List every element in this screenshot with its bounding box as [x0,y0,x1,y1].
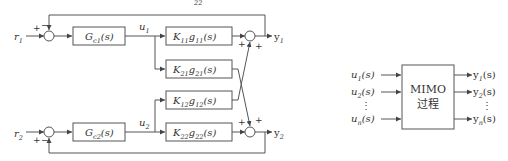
output-junction-2 [245,127,255,137]
output-ellipsis: ⋮ [482,100,492,111]
output-yns-label: yn(s) [472,113,496,127]
sign-err1-ref: + [33,23,41,33]
error-junction-1 [44,31,54,41]
sign-sum1-a: + [238,39,246,49]
u1-label: u1 [139,21,150,35]
input-u2-label: u2(s) [351,86,375,100]
sign-err2-fb: − [41,135,49,145]
process-label: 过程 [417,98,439,111]
loop-2: r2 + − Gc2(s) u2 K12g12(s) K22g22(s) + +… [14,91,284,153]
mimo-label: MIMO [410,83,446,96]
mimo-process-block [402,65,454,129]
input-r1-label: r1 [14,31,23,45]
sign-sum2-a: + [238,117,246,127]
output-y1s-label: y1(s) [472,69,496,83]
sign-sum1-b: + [255,41,263,51]
cross-coupling-k12-to-y1 [232,42,250,100]
sign-sum2-b: + [255,115,263,125]
input-r2-label: r2 [14,128,23,142]
input-un-label: un(s) [351,113,375,127]
input-u1-label: u1(s) [351,69,375,83]
output-y2-label: y2 [273,127,284,141]
output-junction-1 [245,31,255,41]
mimo-diagram: MIMO 过程 u1(s) u2(s) ⋮ un(s) y1(s) y2(s) … [351,65,496,129]
block-diagram-canvas: 22 r1 + − Gc1(s) u1 K11g11(s) K21g21(s) … [0,0,508,161]
title-fragment: 22 [193,0,202,7]
output-y1-label: y1 [273,31,284,45]
loop-1: r1 + − Gc1(s) u1 K11g11(s) K21g21(s) + +… [14,15,284,78]
input-ellipsis: ⋮ [361,100,371,111]
u2-label: u2 [139,117,150,131]
output-y2s-label: y2(s) [472,86,496,100]
sign-err2-ref: + [33,135,41,145]
sign-err1-fb: − [41,20,49,30]
